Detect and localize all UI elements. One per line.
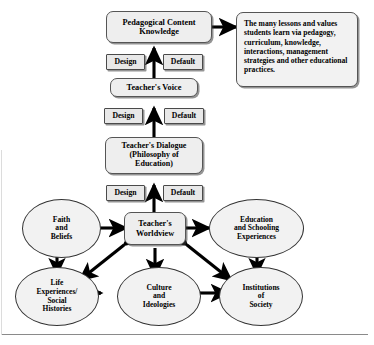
- node-outcome-description: The many lessons and values students lea…: [236, 12, 358, 87]
- ellipse-label: Institutions of Society: [242, 284, 279, 310]
- node-label: Teacher's Dialogue (Philosophy of Educat…: [122, 142, 187, 169]
- ellipse-faith-and-beliefs: Faith and Beliefs: [22, 199, 101, 258]
- ellipse-label: Faith and Beliefs: [51, 216, 73, 242]
- node-teachers-worldview: Teacher's Worldview: [124, 212, 186, 245]
- ellipse-education-and-schooling-experiences: Education and Schooling Experiences: [209, 199, 304, 258]
- left-frame-edge: [1, 150, 2, 335]
- ellipse-culture-and-ideologies: Culture and Ideologies: [117, 267, 201, 326]
- filter-default-3: Default: [163, 185, 203, 201]
- outcome-text: The many lessons and values students lea…: [244, 19, 351, 75]
- ellipse-institutions-of-society: Institutions of Society: [219, 267, 303, 326]
- node-label: Teacher's Worldview: [136, 219, 174, 237]
- diagram-canvas: Pedagogical Content Knowledge The many l…: [0, 0, 374, 345]
- node-teachers-voice: Teacher's Voice: [110, 78, 198, 97]
- filter-label: Default: [172, 112, 196, 120]
- filter-label: Design: [112, 112, 134, 120]
- filter-default-1: Default: [163, 54, 203, 70]
- node-pedagogical-content-knowledge: Pedagogical Content Knowledge: [106, 11, 212, 43]
- ellipse-label: Culture and Ideologies: [143, 284, 176, 310]
- filter-design-2: Design: [104, 108, 143, 124]
- ellipse-label: Life Experiences/ Social Histories: [37, 279, 78, 313]
- node-teachers-dialogue: Teacher's Dialogue (Philosophy of Educat…: [105, 137, 203, 174]
- ellipse-life-experiences-social-histories: Life Experiences/ Social Histories: [15, 267, 99, 326]
- node-label: Teacher's Voice: [127, 83, 182, 92]
- filter-label: Default: [171, 189, 195, 197]
- bottom-divider-rule: [2, 334, 368, 335]
- ellipse-label: Education and Schooling Experiences: [234, 216, 279, 242]
- filter-design-1: Design: [106, 54, 145, 70]
- filter-default-2: Default: [164, 108, 204, 124]
- filter-design-3: Design: [106, 185, 145, 201]
- filter-label: Design: [114, 58, 136, 66]
- node-label: Pedagogical Content Knowledge: [122, 18, 195, 37]
- filter-label: Default: [171, 58, 195, 66]
- filter-label: Design: [114, 189, 136, 197]
